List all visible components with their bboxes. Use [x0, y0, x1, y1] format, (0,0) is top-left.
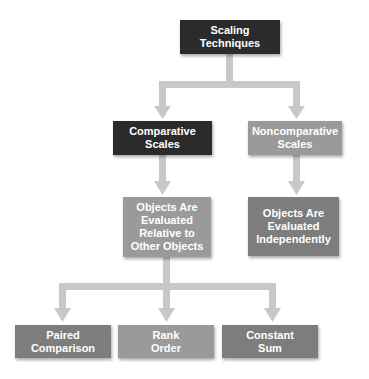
node-paired-comparison: Paired Comparison	[15, 325, 111, 358]
arrowhead-to-constant-sum	[264, 308, 281, 322]
node-scaling-techniques: Scaling Techniques	[180, 20, 280, 54]
edge-root-stem	[226, 54, 233, 85]
arrowhead-to-rank-order	[158, 308, 175, 322]
node-noncomparative-scales: Noncomparative Scales	[248, 121, 342, 155]
edge-to-paired-comparison	[59, 283, 66, 310]
arrowhead-to-paired-comparison	[54, 308, 71, 322]
edge-noncomparative-to-desc	[293, 155, 300, 183]
arrowhead-to-noncomparative	[288, 106, 305, 119]
edge-to-constant-sum	[269, 283, 276, 310]
edge-to-rank-order	[163, 283, 170, 310]
edge-comparative-to-desc	[159, 155, 166, 183]
arrowhead-comparative-to-desc	[154, 181, 171, 195]
arrowhead-noncomparative-to-desc	[288, 181, 305, 195]
node-comparative-scales: Comparative Scales	[113, 121, 212, 155]
edge-to-noncomparative	[293, 81, 300, 108]
edge-to-comparative	[159, 81, 166, 108]
node-constant-sum: Constant Sum	[222, 325, 318, 358]
edge-root-branch-bar	[159, 81, 300, 88]
node-evaluated-independently: Objects Are Evaluated Independently	[248, 197, 339, 256]
node-rank-order: Rank Order	[118, 325, 214, 358]
node-evaluated-relative: Objects Are Evaluated Relative to Other …	[123, 197, 211, 257]
arrowhead-to-comparative	[154, 106, 171, 119]
connectors	[0, 0, 369, 379]
scaling-techniques-diagram: Scaling Techniques Comparative Scales No…	[0, 0, 369, 379]
